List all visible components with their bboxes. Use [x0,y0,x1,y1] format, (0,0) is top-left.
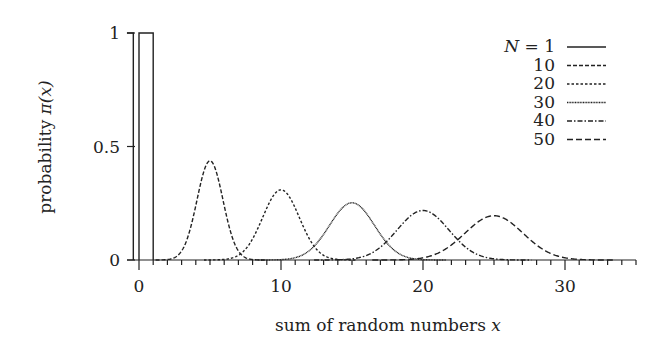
legend-label-n-1: N = 1 [503,36,555,56]
x-tick-label: 10 [270,276,292,296]
curve-n-20 [204,190,357,260]
x-tick-label: 0 [134,276,145,296]
legend-label-n-30: 30 [533,92,555,112]
x-tick-label: 20 [412,276,434,296]
y-tick-label: 0 [109,250,120,270]
axes [127,33,636,270]
curve-n-50 [372,216,615,260]
y-axis-label: probability π(x) [35,80,55,213]
y-tick-label: 0.5 [93,137,120,157]
curve-n-40 [314,211,531,260]
curve-n-30 [258,203,446,260]
legend-label-n-40: 40 [533,110,555,130]
legend: N = 11020304050 [503,36,606,149]
legend-label-n-10: 10 [533,55,555,75]
tick-labels: 010203000.51 [93,23,576,296]
curve-n-10 [156,161,265,260]
chart: 010203000.51 sum of random numbers x pro… [0,0,665,351]
legend-label-n-20: 20 [533,73,555,93]
legend-label-n-50: 50 [533,129,555,149]
x-axis-label: sum of random numbers x [275,315,501,335]
y-tick-label: 1 [109,23,120,43]
x-tick-label: 30 [554,276,576,296]
